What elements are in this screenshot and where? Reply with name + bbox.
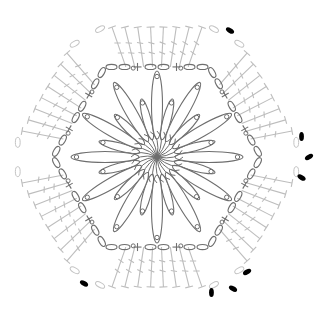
chain-stitch-icon — [214, 78, 224, 90]
treble-stitch-icon — [224, 61, 256, 92]
join-chain-icon — [304, 153, 314, 162]
treble-stitch-icon — [179, 247, 193, 288]
treble-stitch-icon — [188, 247, 206, 288]
chain-stitch-icon — [246, 168, 256, 180]
treble-stitch-icon — [251, 175, 293, 187]
single-crochet-icon — [222, 215, 229, 222]
dot-icon — [179, 244, 183, 248]
chain-stitch-icon — [294, 137, 299, 147]
chain-stitch-icon — [184, 64, 195, 69]
chain-stitch-icon — [15, 137, 20, 147]
dot-icon — [131, 66, 135, 70]
join-chain-icon — [225, 26, 235, 35]
chain-stitch-icon — [208, 280, 219, 289]
chain-stitch-icon — [253, 145, 263, 157]
treble-stitch-icon — [58, 221, 90, 252]
treble-stitch-icon — [228, 72, 262, 100]
chain-stitch-icon — [90, 224, 100, 236]
treble-stitch-icon — [27, 183, 68, 198]
chain-stitch-icon — [234, 39, 245, 48]
chain-stitch-icon — [207, 235, 217, 247]
chain-stitch-icon — [97, 66, 107, 78]
chain-stitch-icon — [145, 244, 156, 249]
treble-stitch-icon — [21, 175, 63, 187]
chain-stitch-icon — [58, 134, 68, 146]
petal-icon — [152, 71, 163, 139]
chain-stitch-icon — [197, 244, 208, 249]
chain-stitch-icon — [119, 64, 130, 69]
join-chain-icon — [79, 279, 89, 288]
treble-stitch-icon — [159, 27, 167, 67]
join-chain-icon — [228, 284, 238, 293]
treble-stitch-icon — [52, 72, 86, 100]
chain-stitch-icon — [214, 224, 224, 236]
treble-stitch-icon — [179, 26, 193, 67]
chain-stitch-icon — [51, 157, 61, 169]
chain-stitch-icon — [246, 134, 256, 146]
treble-stitch-icon — [159, 247, 167, 287]
chain-stitch-icon — [207, 66, 217, 78]
treble-stitch-icon — [46, 83, 82, 108]
chain-stitch-icon — [158, 64, 169, 69]
treble-stitch-icon — [121, 26, 135, 67]
dot-icon — [131, 244, 135, 248]
chain-stitch-icon — [90, 78, 100, 90]
chain-stitch-icon — [15, 167, 20, 177]
dot-icon — [179, 66, 183, 70]
center-ring — [131, 131, 183, 183]
treble-stitch-icon — [170, 27, 181, 67]
chain-stitch-icon — [51, 145, 61, 157]
single-crochet-icon — [85, 215, 92, 222]
chain-stitch-icon — [69, 266, 80, 275]
treble-stitch-icon — [134, 247, 145, 287]
treble-stitch-icon — [64, 50, 95, 84]
single-crochet-icon — [222, 92, 229, 99]
treble-stitch-icon — [52, 214, 86, 242]
treble-stitch-icon — [219, 50, 250, 84]
chain-stitch-icon — [145, 64, 156, 69]
treble-stitch-icon — [58, 61, 90, 92]
treble-stitch-icon — [27, 116, 68, 131]
petal-icon — [71, 152, 139, 163]
treble-stitch-icon — [108, 247, 126, 288]
treble-stitch-icon — [33, 190, 72, 209]
chain-stitch-icon — [95, 25, 106, 34]
chain-stitch-icon — [95, 280, 106, 289]
treble-stitch-icon — [64, 229, 95, 263]
chain-stitch-icon — [106, 64, 117, 69]
chain-stitch-icon — [77, 100, 87, 112]
chain-stitch-icon — [58, 168, 68, 180]
treble-stitch-icon — [246, 116, 287, 131]
join-chain-icon — [299, 132, 304, 141]
treble-stitch-icon — [246, 183, 287, 198]
treble-stitch-icon — [134, 27, 145, 67]
treble-stitch-icon — [46, 206, 82, 231]
treble-stitch-icon — [147, 27, 155, 67]
treble-stitch-icon — [224, 221, 256, 252]
treble-stitch-icon — [108, 26, 126, 67]
chain-stitch-icon — [227, 202, 237, 214]
chain-stitch-icon — [106, 244, 117, 249]
chain-stitch-icon — [208, 25, 219, 34]
hexagon-motif-diagram — [0, 0, 330, 325]
join-chain-icon — [209, 288, 214, 297]
magic-ring-icon — [154, 154, 160, 160]
petal-icon — [152, 175, 163, 243]
treble-stitch-icon — [251, 127, 293, 139]
chain-stitch-icon — [184, 244, 195, 249]
treble-stitch-icon — [219, 229, 250, 263]
single-crochet-icon — [85, 92, 92, 99]
treble-stitch-icon — [233, 83, 269, 108]
treble-stitch-icon — [169, 247, 180, 287]
treble-stitch-icon — [228, 214, 262, 242]
petal-icon — [175, 152, 243, 163]
treble-stitch-icon — [147, 247, 155, 287]
treble-stitch-icon — [121, 247, 135, 288]
treble-stitch-icon — [242, 105, 281, 124]
chain-stitch-icon — [197, 64, 208, 69]
chain-stitch-icon — [158, 244, 169, 249]
treble-stitch-icon — [233, 206, 269, 231]
chain-stitch-icon — [227, 100, 237, 112]
chain-stitch-icon — [253, 157, 263, 169]
chain-stitch-icon — [97, 235, 107, 247]
